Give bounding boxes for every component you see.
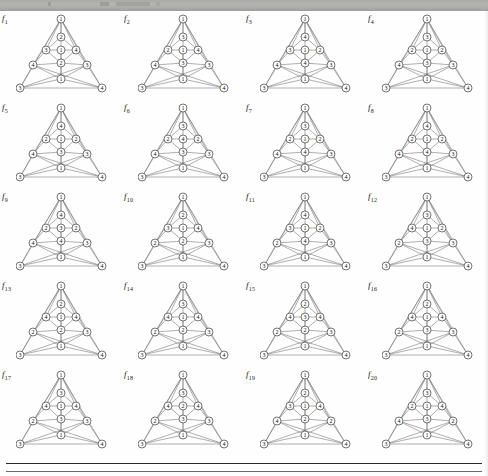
node-label: 4 [411,314,414,320]
node-label: 3 [208,329,211,335]
graph-edge [33,243,102,266]
graph-node-lower: 4 [57,237,65,245]
graph-node-left: 2 [164,135,172,143]
graph-node-corner-right: 4 [220,351,228,359]
header-smudge [100,2,109,6]
graph-node-left: 2 [286,135,294,143]
graph-edge [20,243,87,266]
node-label: 1 [426,254,429,260]
graph-node-mid-left: 2 [151,328,159,336]
node-label: 4 [101,441,104,447]
node-label: 3 [86,62,89,68]
graph-edge [386,168,427,177]
node-label: 4 [197,314,200,320]
graph-edge [399,154,468,177]
graph-node-mid-right: 2 [327,417,335,425]
graph-node-base-center: 1 [301,253,309,261]
graph-edge [142,346,183,355]
graph-node-left: 4 [164,402,172,410]
node-label: 2 [276,240,279,246]
graph-node-center: 1 [423,46,431,54]
graph-node-corner-left: 3 [16,84,24,92]
node-label: 1 [304,105,307,111]
graph-drawing: 13214342134 [382,369,476,453]
graph-edge [427,286,468,355]
node-label: 3 [19,441,22,447]
node-label: 4 [304,212,307,218]
graph-node-corner-left: 3 [382,440,390,448]
node-label: 3 [19,174,22,180]
node-label: 1 [60,136,63,142]
graph-edge [155,243,183,257]
graph-edge [264,346,305,355]
graph-edge [305,346,346,355]
graph-node-right: 2 [194,135,202,143]
graph-node-mid-left: 2 [395,239,403,247]
node-label: 1 [182,165,185,171]
graph-node-right: 4 [194,313,202,321]
graph-node-base-center: 1 [423,342,431,350]
graph-edge [20,435,61,444]
graph-edge [20,346,61,355]
graph-node-apex: 1 [179,371,187,379]
graph-drawing: 12414223134 [16,280,110,364]
graph-node-left: 2 [42,135,50,143]
graph-edge [264,435,305,444]
graph-node-center: 1 [423,135,431,143]
graph-node-corner-right: 4 [464,173,472,181]
graph-edge [183,286,224,355]
graph-edge [33,243,61,257]
graph-drawing: 12314223134 [138,191,232,275]
figure-cell: f314312443134 [244,11,366,99]
figure-label-index: 9 [5,197,8,203]
figure-cell: f814212443134 [366,100,488,188]
graph-node-corner-right: 4 [98,173,106,181]
graph-edge [61,243,87,257]
node-label: 2 [441,136,444,142]
graph-edge [277,421,305,435]
node-label: 3 [19,263,22,269]
node-label: 2 [304,301,307,307]
node-label: 1 [60,403,63,409]
graph-node-mid-right: 3 [205,239,213,247]
figure-label-index: 13 [5,286,11,292]
node-label: 3 [385,441,388,447]
node-label: 3 [263,263,266,269]
figure-label: f6 [124,102,130,114]
graph-edge [183,257,224,266]
node-label: 1 [304,194,307,200]
node-label: 3 [289,225,292,231]
node-label: 4 [345,263,348,269]
graph-edge [277,65,346,88]
node-label: 1 [60,254,63,260]
graph-edge [277,243,305,257]
graph-edge [33,332,102,355]
figure-label: f4 [368,13,374,25]
node-label: 4 [223,174,226,180]
graph-node-corner-right: 4 [342,351,350,359]
node-label: 4 [154,151,157,157]
node-label: 1 [304,254,307,260]
graph-node-center: 1 [423,402,431,410]
node-label: 4 [45,403,48,409]
node-label: 1 [304,403,307,409]
graph-node-lower: 3 [423,326,431,334]
graph-node-apex: 1 [57,104,65,112]
node-label: 4 [398,418,401,424]
node-label: 3 [330,62,333,68]
graph-edge [20,79,61,88]
node-label: 4 [467,352,470,358]
node-label: 4 [60,238,63,244]
graph-node-right: 2 [72,135,80,143]
graph-node-corner-right: 4 [98,351,106,359]
graph-drawing: 14312423134 [260,191,354,275]
graph-edge [305,421,331,435]
node-label: 3 [426,390,429,396]
graph-node-center: 1 [301,46,309,54]
graph-edge [386,332,453,355]
graph-node-lower: 2 [57,59,65,67]
node-label: 2 [154,418,157,424]
graph-node-upper: 2 [423,300,431,308]
node-label: 2 [45,225,48,231]
node-label: 4 [276,418,279,424]
